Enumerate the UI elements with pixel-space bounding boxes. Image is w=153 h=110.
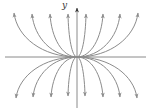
phase-portrait — [0, 0, 153, 110]
y-axis-label: y — [62, 1, 67, 10]
trajectory-curve — [68, 14, 77, 57]
trajectories — [14, 13, 138, 98]
trajectory-curve — [68, 57, 77, 96]
trajectory-curve — [77, 57, 85, 96]
trajectory-curve — [77, 57, 137, 98]
trajectory-curve — [14, 13, 77, 57]
trajectory-curve — [77, 14, 86, 57]
